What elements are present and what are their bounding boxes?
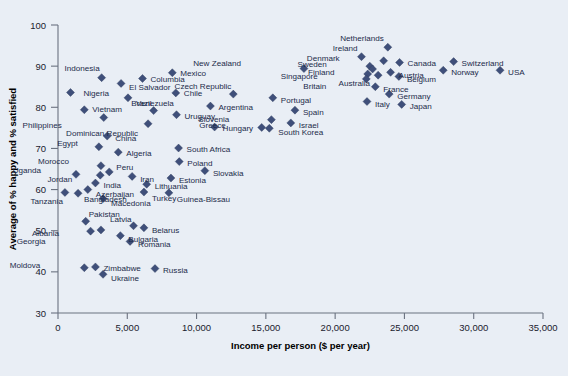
data-point-marker[interactable] — [201, 167, 209, 175]
y-tick-label: 90 — [35, 61, 46, 72]
data-point-label: Zimbabwe — [103, 264, 141, 273]
data-point-marker[interactable] — [91, 263, 99, 271]
data-point-marker[interactable] — [172, 111, 180, 119]
data-point-label: Switzerland — [462, 59, 504, 68]
data-point-label: Greece — [199, 121, 226, 130]
data-point-label: Argentina — [218, 103, 253, 112]
data-point-label: Spain — [303, 108, 324, 117]
data-point-marker[interactable] — [66, 88, 74, 96]
data-point-marker[interactable] — [387, 68, 395, 76]
data-point-label: Belarus — [152, 226, 179, 235]
data-point-label: El Salvador — [129, 83, 171, 92]
data-point-marker[interactable] — [380, 57, 388, 65]
data-point-label: Romania — [138, 240, 171, 249]
data-point-marker[interactable] — [105, 168, 113, 176]
data-point-label: Russia — [163, 266, 188, 275]
data-point-label: Guinea-Bissau — [177, 195, 230, 204]
data-point-marker[interactable] — [291, 106, 299, 114]
data-point-marker[interactable] — [80, 106, 88, 114]
data-point-marker[interactable] — [95, 143, 103, 151]
data-point-label: Britain — [303, 82, 326, 91]
data-point-label: Japan — [410, 102, 432, 111]
data-point-label: Portugal — [281, 96, 311, 105]
data-point-marker[interactable] — [167, 174, 175, 182]
data-point-marker[interactable] — [371, 83, 379, 91]
data-point-label: Czech Republic — [175, 82, 232, 91]
data-point-label: China — [115, 134, 137, 143]
data-point-marker[interactable] — [128, 172, 136, 180]
data-point-marker[interactable] — [144, 120, 152, 128]
data-point-marker[interactable] — [269, 94, 277, 102]
data-point-marker[interactable] — [175, 144, 183, 152]
data-point-label: Egypt — [57, 139, 78, 148]
data-point-marker[interactable] — [72, 170, 80, 178]
data-point-marker[interactable] — [398, 100, 406, 108]
data-point-marker[interactable] — [206, 102, 214, 110]
data-point-marker[interactable] — [363, 98, 371, 106]
scatter-chart: 05,00010,00015,00020,00025,00030,00035,0… — [0, 0, 568, 376]
data-point-marker[interactable] — [267, 116, 275, 124]
data-point-label: Mexico — [180, 69, 206, 78]
data-point-label: Ireland — [333, 44, 358, 53]
data-point-label: Latvia — [110, 215, 132, 224]
data-point-marker[interactable] — [439, 66, 447, 74]
data-point-label: Lithuania — [155, 182, 188, 191]
data-point-marker[interactable] — [384, 43, 392, 51]
data-point-label: Italy — [375, 100, 391, 109]
x-tick-label: 30,000 — [459, 322, 488, 333]
data-point-marker[interactable] — [374, 71, 382, 79]
data-point-marker[interactable] — [87, 227, 95, 235]
data-point-label: Vietnam — [92, 105, 122, 114]
data-point-marker[interactable] — [98, 74, 106, 82]
data-point-marker[interactable] — [96, 171, 104, 179]
data-point-marker[interactable] — [357, 53, 365, 61]
data-point-marker[interactable] — [97, 162, 105, 170]
data-point-marker[interactable] — [396, 58, 404, 66]
data-point-marker[interactable] — [140, 188, 148, 196]
data-point-marker[interactable] — [287, 119, 295, 127]
data-point-label: Indonesia — [65, 64, 101, 73]
data-point-marker[interactable] — [139, 74, 147, 82]
x-tick-label: 25,000 — [390, 322, 419, 333]
data-point-marker[interactable] — [61, 188, 69, 196]
data-point-label: Iran — [140, 175, 154, 184]
data-point-label: Brazil — [131, 99, 151, 108]
data-point-marker[interactable] — [84, 186, 92, 194]
data-point-label: Morocco — [38, 157, 70, 166]
data-point-marker[interactable] — [97, 226, 105, 234]
data-point-marker[interactable] — [116, 232, 124, 240]
x-tick-label: 10,000 — [182, 322, 211, 333]
chart-canvas: 05,00010,00015,00020,00025,00030,00035,0… — [0, 0, 568, 376]
data-point-marker[interactable] — [151, 265, 159, 273]
data-point-label: Hungary — [223, 124, 255, 133]
x-tick-label: 0 — [55, 322, 60, 333]
data-point-marker[interactable] — [74, 189, 82, 197]
data-point-label: Georgia — [17, 237, 46, 246]
x-axis-title: Income per person ($ per year) — [231, 340, 370, 351]
data-point-marker[interactable] — [114, 148, 122, 156]
data-point-label: New Zealand — [193, 59, 241, 68]
data-point-label: Netherlands — [340, 34, 384, 43]
data-point-label: Philippines — [23, 121, 62, 130]
data-point-marker[interactable] — [258, 123, 266, 131]
data-point-label: Poland — [187, 159, 212, 168]
data-point-marker[interactable] — [80, 264, 88, 272]
y-tick-label: 30 — [35, 308, 46, 319]
data-point-label: Norway — [451, 68, 479, 77]
data-point-label: Germany — [397, 92, 431, 101]
data-point-marker[interactable] — [140, 224, 148, 232]
data-point-marker[interactable] — [175, 158, 183, 166]
y-tick-label: 100 — [30, 20, 46, 31]
data-point-marker[interactable] — [100, 114, 108, 122]
data-point-marker[interactable] — [91, 179, 99, 187]
data-point-marker[interactable] — [450, 58, 458, 66]
x-tick-label: 15,000 — [251, 322, 280, 333]
data-point-label: Macedonia — [111, 199, 151, 208]
data-point-marker[interactable] — [265, 124, 273, 132]
data-point-label: Israel — [299, 121, 319, 130]
data-point-marker[interactable] — [229, 90, 237, 98]
data-point-marker[interactable] — [117, 79, 125, 87]
x-tick-label: 20,000 — [321, 322, 350, 333]
x-tick-label: 35,000 — [528, 322, 557, 333]
data-point-label: Australia — [339, 79, 371, 88]
